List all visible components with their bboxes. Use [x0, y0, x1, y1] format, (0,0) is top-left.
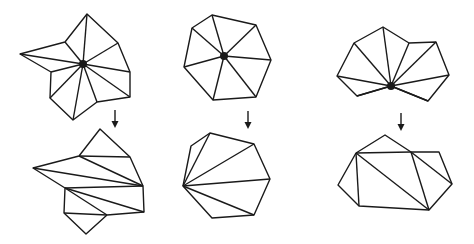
triangulation-diagonal	[183, 179, 270, 186]
center-vertex-dot	[79, 60, 87, 68]
polygon-after-outline	[338, 135, 452, 210]
down-arrow-icon	[245, 122, 252, 129]
fan-edge	[224, 56, 271, 60]
triangulation-diagonal	[65, 188, 144, 212]
fan-edge	[391, 86, 428, 101]
fan-edge	[83, 43, 118, 64]
triangulation-diagonal	[65, 186, 143, 188]
fan-edge	[184, 56, 224, 67]
fan-edge	[391, 43, 409, 86]
triangulation-diagonal	[183, 186, 254, 215]
fan-edge	[224, 56, 256, 97]
fan-edge	[357, 86, 391, 96]
polygon-before-outline	[20, 14, 130, 120]
fan-edge	[65, 42, 83, 64]
center-vertex-dot	[387, 82, 395, 90]
fan-edge	[224, 25, 256, 56]
triangulation-diagonal	[411, 152, 429, 210]
panel-middle	[183, 15, 271, 218]
triangulation-diagonal	[356, 152, 411, 153]
center-vertex-dot	[220, 52, 228, 60]
triangulation-diagonal	[79, 156, 130, 157]
triangulation-diagonal	[64, 213, 107, 215]
fan-edge	[83, 64, 130, 97]
fan-edge	[213, 56, 224, 100]
fan-edge	[83, 64, 130, 72]
panel-right	[337, 27, 452, 210]
triangulation-diagonal	[356, 153, 359, 206]
down-arrow-icon	[112, 121, 119, 128]
polygon-before-outline	[337, 27, 449, 101]
polygon-after-outline	[183, 133, 270, 218]
diagram-canvas	[0, 0, 474, 244]
triangulation-diagonal	[79, 156, 143, 186]
triangulation-diagonal	[356, 153, 429, 210]
polygon-after-outline	[33, 129, 144, 234]
down-arrow-icon	[398, 124, 405, 131]
triangulation-diagonal	[65, 188, 107, 215]
triangulation-diagonal	[33, 168, 143, 186]
fan-edge	[83, 14, 87, 64]
triangulation-diagram	[0, 0, 474, 244]
panel-left	[20, 14, 144, 234]
